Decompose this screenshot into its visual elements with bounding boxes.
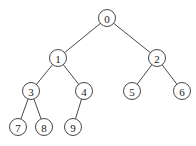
edge-4-9 [75, 99, 81, 119]
tree-node-7: 7 [10, 119, 27, 136]
node-label: 8 [41, 122, 47, 134]
edge-2-5 [137, 65, 152, 84]
node-label: 9 [70, 122, 76, 134]
edge-3-7 [21, 99, 28, 119]
edge-3-8 [34, 99, 41, 119]
node-label: 0 [104, 13, 110, 25]
nodes: 0123456789 [10, 10, 191, 136]
node-label: 2 [154, 53, 160, 65]
tree-node-1: 1 [50, 50, 67, 67]
tree-node-4: 4 [76, 83, 93, 100]
node-label: 5 [129, 86, 135, 98]
tree-node-8: 8 [36, 119, 53, 136]
tree-node-3: 3 [23, 83, 40, 100]
edge-1-4 [63, 65, 78, 85]
tree-node-9: 9 [65, 119, 82, 136]
node-label: 7 [15, 122, 21, 134]
tree-node-2: 2 [149, 50, 166, 67]
binary-tree-diagram: 0123456789 [0, 0, 196, 146]
edge-0-1 [65, 23, 101, 52]
edges [21, 23, 177, 119]
edge-1-3 [36, 65, 52, 85]
node-label: 1 [55, 53, 61, 65]
node-label: 6 [179, 86, 185, 98]
edge-0-2 [114, 23, 151, 52]
edge-2-6 [162, 65, 177, 84]
tree-node-0: 0 [99, 10, 116, 27]
node-label: 4 [81, 86, 87, 98]
tree-node-6: 6 [174, 83, 191, 100]
tree-node-5: 5 [124, 83, 141, 100]
node-label: 3 [28, 86, 34, 98]
